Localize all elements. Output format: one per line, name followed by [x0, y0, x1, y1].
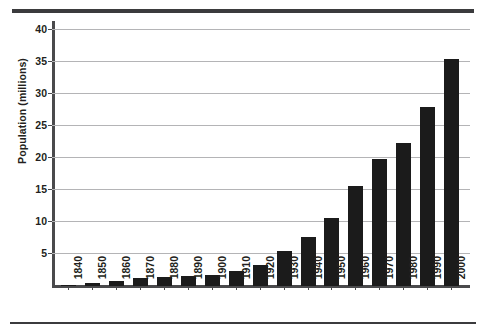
- x-tick-mark: [331, 286, 332, 290]
- x-tick-label: 1940: [312, 256, 324, 316]
- y-tick-label-10: 10: [35, 215, 47, 227]
- x-tick-mark: [379, 286, 380, 290]
- bar-slot: [273, 24, 297, 286]
- bar: [444, 59, 459, 286]
- x-tick-label: 1870: [144, 256, 156, 316]
- x-tick-label: 1920: [264, 256, 276, 316]
- y-tick-label-20: 20: [35, 151, 47, 163]
- bar-slot: [368, 24, 392, 286]
- bar-slot: [153, 24, 177, 286]
- x-tick-mark: [92, 286, 93, 290]
- x-tick-mark: [451, 286, 452, 290]
- y-tick-label-30: 30: [35, 87, 47, 99]
- y-axis-title: Population (millions): [16, 31, 28, 191]
- figure-top-rule: [12, 9, 474, 13]
- x-tick-label: 1960: [359, 256, 371, 316]
- bars-group: [52, 24, 470, 286]
- bar-slot: [129, 24, 153, 286]
- bar-slot: [177, 24, 201, 286]
- bar-slot: [344, 24, 368, 286]
- x-tick-mark: [284, 286, 285, 290]
- x-tick-mark: [403, 286, 404, 290]
- x-tick-label: 1850: [96, 256, 108, 316]
- x-tick-mark: [164, 286, 165, 290]
- bar-slot: [416, 24, 440, 286]
- y-tick-label-15: 15: [35, 183, 47, 195]
- x-tick-label: 1860: [120, 256, 132, 316]
- x-tick-label: 1970: [383, 256, 395, 316]
- bar-slot: [57, 24, 81, 286]
- figure-bottom-rule: [10, 322, 476, 324]
- x-tick-label: 1930: [288, 256, 300, 316]
- bar-slot: [225, 24, 249, 286]
- x-tick-mark: [260, 286, 261, 290]
- x-tick-mark: [427, 286, 428, 290]
- x-tick-label: 1840: [72, 256, 84, 316]
- bar-slot: [81, 24, 105, 286]
- x-tick-mark: [116, 286, 117, 290]
- bar-slot: [105, 24, 129, 286]
- bar-slot: [297, 24, 321, 286]
- y-tick-label-35: 35: [35, 55, 47, 67]
- x-tick-label: 2000: [455, 256, 467, 316]
- y-tick-label-5: 5: [41, 247, 47, 259]
- x-tick-mark: [68, 286, 69, 290]
- x-tick-mark: [212, 286, 213, 290]
- bar-slot: [392, 24, 416, 286]
- bar-slot: [320, 24, 344, 286]
- x-tick-label: 1910: [240, 256, 252, 316]
- x-tick-label: 1900: [216, 256, 228, 316]
- x-tick-mark: [188, 286, 189, 290]
- x-tick-mark: [355, 286, 356, 290]
- plot-area: 510152025303540 184018501860187018801890…: [52, 24, 470, 286]
- y-tick-label-25: 25: [35, 119, 47, 131]
- population-bar-chart-figure: Population (millions) 510152025303540 18…: [0, 0, 483, 332]
- x-tick-label: 1890: [192, 256, 204, 316]
- x-tick-label: 1990: [431, 256, 443, 316]
- x-tick-mark: [308, 286, 309, 290]
- bar-slot: [201, 24, 225, 286]
- x-tick-mark: [140, 286, 141, 290]
- x-tick-mark: [236, 286, 237, 290]
- x-tick-label: 1950: [335, 256, 347, 316]
- bar-slot: [249, 24, 273, 286]
- y-tick-label-40: 40: [35, 23, 47, 35]
- x-tick-label: 1880: [168, 256, 180, 316]
- x-tick-label: 1980: [407, 256, 419, 316]
- bar-slot: [440, 24, 464, 286]
